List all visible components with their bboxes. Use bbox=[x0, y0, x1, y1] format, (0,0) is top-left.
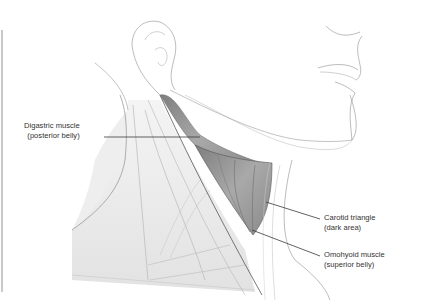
omohyoid-leader bbox=[252, 230, 320, 256]
label-line-1: Digastric muscle bbox=[24, 121, 80, 131]
label-line-2: (superior belly) bbox=[324, 260, 385, 270]
label-carotid-triangle: Carotid triangle (dark area) bbox=[324, 213, 376, 233]
label-line-2: (dark area) bbox=[324, 223, 376, 233]
label-omohyoid-muscle: Omohyoid muscle (superior belly) bbox=[324, 250, 385, 270]
label-line-1: Omohyoid muscle bbox=[324, 250, 385, 260]
label-line-1: Carotid triangle bbox=[324, 213, 376, 223]
label-digastric-muscle: Digastric muscle (posterior belly) bbox=[24, 121, 80, 141]
face-profile bbox=[318, 26, 362, 140]
ear bbox=[132, 21, 176, 95]
anatomy-figure: Digastric muscle (posterior belly) Carot… bbox=[0, 0, 431, 305]
front-neck bbox=[263, 160, 330, 300]
label-line-2: (posterior belly) bbox=[24, 131, 80, 141]
carotid-leader bbox=[266, 202, 320, 219]
